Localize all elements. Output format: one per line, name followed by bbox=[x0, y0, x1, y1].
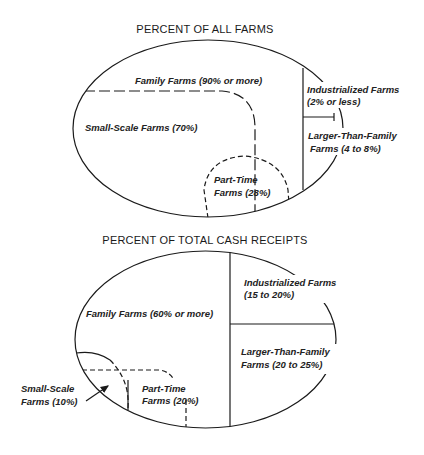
part-time-boundary-bottom bbox=[82, 370, 174, 380]
part-time-label-1: Part-Time bbox=[214, 174, 258, 185]
small-scale-label: Small-Scale Farms (70%) bbox=[85, 122, 197, 133]
industrialized-label-2: (2% or less) bbox=[307, 96, 360, 107]
larger-label-bottom-2: Farms (20 to 25%) bbox=[241, 359, 322, 370]
larger-label-1: Larger-Than-Family bbox=[308, 130, 397, 141]
larger-label-2: Farms (4 to 8%) bbox=[310, 143, 381, 154]
farm-distribution-diagram: PERCENT OF ALL FARMS Family Farms (90% o… bbox=[0, 0, 424, 455]
part-time-label-bottom-1: Part-Time bbox=[142, 383, 186, 394]
small-scale-label-bottom-1: Small-Scale bbox=[21, 383, 75, 394]
all-farms-title: PERCENT OF ALL FARMS bbox=[136, 23, 273, 35]
family-farms-label: Family Farms (90% or more) bbox=[135, 75, 262, 86]
small-scale-arc-top bbox=[76, 352, 110, 360]
part-time-label-bottom-2: Farms (20%) bbox=[142, 395, 199, 406]
cash-receipts-title: PERCENT OF TOTAL CASH RECEIPTS bbox=[102, 234, 307, 246]
industrialized-label-1: Industrialized Farms bbox=[307, 84, 399, 95]
larger-label-bottom-1: Larger-Than-Family bbox=[241, 346, 330, 357]
all-farms-diagram: PERCENT OF ALL FARMS Family Farms (90% o… bbox=[73, 23, 406, 218]
small-scale-label-bottom-2: Farms (10%) bbox=[21, 396, 78, 407]
cash-receipts-diagram: PERCENT OF TOTAL CASH RECEIPTS Family Fa… bbox=[21, 234, 345, 430]
part-time-label-2: Farms (28%) bbox=[214, 187, 271, 198]
small-scale-arc bbox=[110, 360, 128, 408]
family-farms-label-bottom: Family Farms (60% or more) bbox=[86, 308, 213, 319]
industrialized-label-bottom-2: (15 to 20%) bbox=[244, 289, 294, 300]
industrialized-label-bottom-1: Industrialized Farms bbox=[244, 277, 336, 288]
